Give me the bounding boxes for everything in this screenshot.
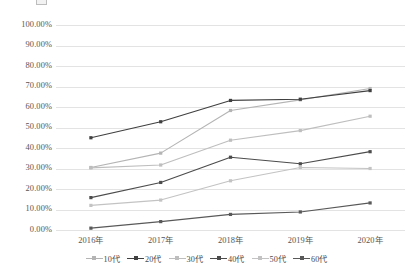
legend-marker-icon [217,256,221,260]
legend-item-label: 20代 [145,252,162,264]
legend-item-10代[interactable]: 10代 [86,252,121,264]
gridline [56,230,405,231]
data-point-marker [89,204,92,207]
data-point-marker [299,98,302,101]
y-axis-tick-labels: 0.00%10.00%20.00%30.00%40.00%50.00%60.00… [0,25,52,230]
data-point-marker [369,150,372,153]
y-axis-tick-label: 50.00% [26,122,52,131]
series-40代 [89,150,371,199]
series-line [91,116,370,168]
data-point-marker [89,227,92,230]
legend-item-60代[interactable]: 60代 [293,252,328,264]
data-point-marker [89,166,92,169]
y-axis-tick-label: 10.00% [26,204,52,213]
data-point-marker [369,89,372,92]
data-point-marker [299,162,302,165]
data-point-marker [299,166,302,169]
data-point-marker [159,163,162,166]
data-point-marker [369,115,372,118]
data-point-marker [229,213,232,216]
data-point-marker [229,179,232,182]
data-point-marker [159,181,162,184]
y-axis-tick-label: 100.00% [21,20,52,29]
y-axis-tick-label: 30.00% [26,163,52,172]
series-line [91,167,370,205]
legend-swatch-icon [86,254,103,263]
data-point-marker [159,152,162,155]
legend-item-label: 40代 [228,252,245,264]
legend-marker-icon [258,256,262,260]
x-axis-tick-labels: 2016年2017年2018年2019年2020年 [56,233,405,247]
data-point-marker [229,156,232,159]
data-point-marker [369,167,372,170]
x-axis-tick-label: 2019年 [288,233,313,245]
data-point-marker [159,198,162,201]
x-axis-tick-label: 2016年 [78,233,103,245]
series-20代 [89,89,371,139]
data-point-marker [159,220,162,223]
legend-item-label: 60代 [311,252,328,264]
y-axis-tick-label: 20.00% [26,184,52,193]
y-axis-tick-label: 90.00% [26,40,52,49]
chart-legend: 10代20代30代40代50代60代 [0,252,413,264]
series-60代 [89,201,371,229]
legend-swatch-icon [210,254,227,263]
legend-item-label: 30代 [187,252,204,264]
x-axis-tick-label: 2018年 [218,233,243,245]
legend-item-50代[interactable]: 50代 [252,252,287,264]
legend-swatch-icon [127,254,144,263]
clipped-top-artifact [36,0,47,5]
data-point-marker [229,139,232,142]
y-axis-tick-label: 40.00% [26,143,52,152]
y-axis-tick-label: 70.00% [26,81,52,90]
legend-item-20代[interactable]: 20代 [127,252,162,264]
legend-item-label: 50代 [270,252,287,264]
y-axis-tick-label: 80.00% [26,61,52,70]
legend-swatch-icon [252,254,269,263]
data-point-marker [229,99,232,102]
data-point-marker [89,136,92,139]
legend-item-label: 10代 [104,252,121,264]
legend-item-30代[interactable]: 30代 [169,252,204,264]
legend-item-40代[interactable]: 40代 [210,252,245,264]
data-point-marker [229,109,232,112]
data-point-marker [369,201,372,204]
series-50代 [89,166,371,207]
legend-marker-icon [134,256,138,260]
data-point-marker [299,210,302,213]
legend-marker-icon [300,256,304,260]
series-line [91,91,370,138]
data-point-marker [89,196,92,199]
y-axis-tick-label: 60.00% [26,102,52,111]
series-30代 [89,115,371,170]
legend-swatch-icon [169,254,186,263]
x-axis-tick-label: 2020年 [357,233,382,245]
plot-area [56,25,405,230]
y-axis-tick-label: 0.00% [30,225,52,234]
data-point-marker [299,129,302,132]
legend-marker-icon [175,256,179,260]
series-layer [56,25,405,230]
x-axis-tick-label: 2017年 [148,233,173,245]
line-chart: 0.00%10.00%20.00%30.00%40.00%50.00%60.00… [0,0,413,272]
data-point-marker [159,120,162,123]
legend-marker-icon [92,256,96,260]
legend-swatch-icon [293,254,310,263]
